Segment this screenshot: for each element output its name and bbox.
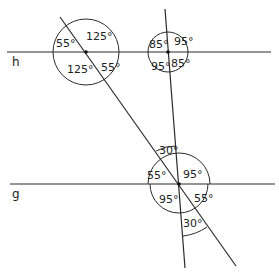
line-g-label: g: [12, 187, 20, 201]
angle-b-bottom-right: 85°: [171, 57, 191, 70]
angle-c-bottom-left: 95°: [159, 193, 179, 206]
geometry-diagram: h g 55° 125° 125° 55° 85° 95° 95° 85° 30…: [0, 0, 279, 277]
angle-a-top-right: 125°: [86, 30, 113, 43]
point-c: [177, 182, 181, 186]
angle-c-bottom-right: 55°: [194, 192, 214, 205]
angle-b-bottom-left: 95°: [151, 60, 171, 73]
angle-c-top-right: 95°: [183, 168, 203, 181]
angle-b-top-right: 95°: [174, 35, 194, 48]
angle-a-bottom-right: 55°: [101, 61, 121, 74]
angle-a-bottom-left: 125°: [67, 63, 94, 76]
angle-a-top-left: 55°: [56, 37, 76, 50]
angle-b-top-left: 85°: [149, 38, 169, 51]
angle-c-top-30: 30°: [159, 144, 179, 157]
line-h-label: h: [12, 55, 20, 69]
point-a: [84, 50, 88, 54]
angle-c-left: 55°: [147, 169, 167, 182]
angle-c-bottom-30: 30°: [183, 217, 203, 230]
